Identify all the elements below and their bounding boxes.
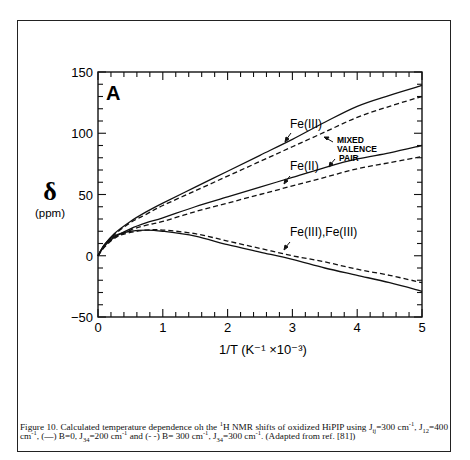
y-tick-label: 50 — [79, 188, 93, 203]
x-tick-label: 1 — [159, 320, 166, 335]
y-tick-label: −50 — [71, 310, 93, 325]
chart-plot: 012345−50050100150 A δ (ppm) 1/T (K⁻¹ ×1… — [0, 0, 470, 460]
x-axis-label: 1/T (K⁻¹ ×10⁻³) — [219, 342, 307, 357]
annotation-pair: PAIR — [339, 153, 359, 163]
series-line — [98, 97, 422, 256]
series-line — [98, 230, 422, 283]
y-axis-unit: (ppm) — [35, 207, 65, 219]
annotation-fe2: Fe(II) — [290, 159, 319, 173]
series-line — [98, 146, 422, 256]
annotation-fe3fe3: Fe(III),Fe(III) — [290, 225, 357, 239]
x-tick-label: 2 — [224, 320, 231, 335]
y-tick-label: 150 — [71, 65, 93, 80]
series-line — [98, 157, 422, 256]
x-tick-label: 4 — [354, 320, 361, 335]
x-tick-label: 0 — [94, 320, 101, 335]
figure-caption: Figure 10. Calculated temperature depend… — [20, 423, 448, 442]
panel-label: A — [106, 82, 120, 104]
y-tick-label: 0 — [86, 249, 93, 264]
y-tick-label: 100 — [71, 126, 93, 141]
annotation-fe3: Fe(III) — [290, 117, 322, 131]
y-axis-symbol: δ — [43, 177, 57, 206]
x-tick-label: 5 — [418, 320, 425, 335]
axes: 012345−50050100150 — [71, 65, 426, 335]
data-series — [98, 85, 422, 291]
series-line — [98, 230, 422, 291]
x-tick-label: 3 — [289, 320, 296, 335]
